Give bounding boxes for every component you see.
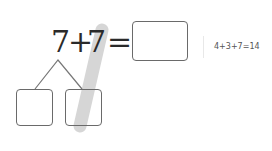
bond-box-right[interactable] [65,89,102,126]
bond-box-left[interactable] [16,89,53,126]
hint-text: 4+3+7=14 [214,42,260,51]
number-bond-lines [35,60,82,89]
addend-2: 7 [87,27,106,57]
answer-box[interactable] [132,21,188,61]
equals-sign: = [107,27,132,57]
hint-panel: 4+3+7=14 [203,36,266,58]
